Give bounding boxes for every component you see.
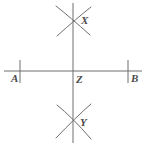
point-label-z: Z	[76, 74, 83, 85]
point-label-a: A	[11, 73, 18, 84]
point-label-x: X	[81, 15, 88, 26]
point-label-b: B	[131, 73, 138, 84]
construction-drawing	[0, 0, 146, 146]
point-label-y: Y	[80, 117, 87, 128]
geometry-figure: A B Z X Y	[0, 0, 146, 146]
